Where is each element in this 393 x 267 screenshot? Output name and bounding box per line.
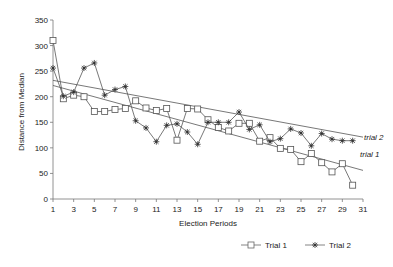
square-marker-icon bbox=[277, 145, 283, 151]
star-marker-icon bbox=[184, 129, 190, 135]
square-marker-icon bbox=[319, 160, 325, 166]
square-marker-icon bbox=[350, 182, 356, 188]
square-marker-icon bbox=[339, 161, 345, 167]
star-marker-icon bbox=[350, 138, 356, 144]
star-marker-icon bbox=[298, 130, 304, 136]
square-marker-icon bbox=[122, 105, 128, 111]
x-tick-label: 29 bbox=[338, 205, 347, 214]
star-marker-icon bbox=[112, 87, 118, 93]
square-marker-icon bbox=[112, 107, 118, 113]
square-marker-icon bbox=[164, 105, 170, 111]
x-tick-label: 7 bbox=[113, 205, 118, 214]
star-marker-icon bbox=[60, 93, 66, 99]
square-marker-icon bbox=[81, 94, 87, 100]
star-marker-icon bbox=[319, 131, 325, 137]
square-marker-icon bbox=[308, 150, 314, 156]
x-tick-label: 3 bbox=[71, 205, 76, 214]
axes: 0501001502002503003501357911131517192123… bbox=[35, 16, 368, 214]
y-tick-label: 0 bbox=[44, 195, 49, 204]
square-marker-icon bbox=[195, 106, 201, 112]
star-marker-icon bbox=[174, 121, 180, 127]
star-marker-icon bbox=[153, 139, 159, 145]
square-marker-icon bbox=[288, 146, 294, 152]
square-marker-icon bbox=[133, 98, 139, 104]
star-marker-icon bbox=[122, 83, 128, 89]
star-marker-icon bbox=[329, 136, 335, 142]
star-marker-icon bbox=[236, 109, 242, 115]
y-tick-label: 200 bbox=[35, 93, 49, 102]
square-marker-icon bbox=[226, 128, 232, 134]
square-marker-icon bbox=[102, 109, 108, 115]
star-marker-icon bbox=[195, 141, 201, 147]
square-marker-icon bbox=[236, 120, 242, 126]
star-marker-icon bbox=[164, 122, 170, 128]
series-trial-2 bbox=[50, 60, 356, 149]
square-marker-icon bbox=[50, 37, 56, 43]
star-marker-icon bbox=[102, 92, 108, 98]
trend-lines bbox=[53, 80, 363, 170]
x-tick-label: 13 bbox=[173, 205, 182, 214]
x-tick-label: 17 bbox=[214, 205, 223, 214]
y-tick-label: 50 bbox=[39, 169, 48, 178]
data-series bbox=[50, 37, 356, 188]
star-marker-icon bbox=[246, 126, 252, 132]
trendline-label-trial-2: trial 2 bbox=[364, 133, 384, 142]
square-marker-icon bbox=[248, 242, 254, 248]
legend-label-trial-2: Trial 2 bbox=[329, 241, 351, 250]
square-marker-icon bbox=[153, 108, 159, 114]
square-marker-icon bbox=[143, 105, 149, 111]
star-marker-icon bbox=[308, 143, 314, 149]
x-tick-label: 9 bbox=[133, 205, 138, 214]
star-marker-icon bbox=[133, 118, 139, 124]
star-marker-icon bbox=[339, 138, 345, 144]
x-tick-label: 31 bbox=[359, 205, 368, 214]
trendline bbox=[53, 80, 363, 137]
star-marker-icon bbox=[205, 119, 211, 125]
square-marker-icon bbox=[257, 138, 263, 144]
star-marker-icon bbox=[143, 125, 149, 131]
star-marker-icon bbox=[267, 139, 273, 145]
x-tick-label: 19 bbox=[235, 205, 244, 214]
square-marker-icon bbox=[184, 105, 190, 111]
y-tick-label: 300 bbox=[35, 42, 49, 51]
legend-item-trial-1: Trial 1 bbox=[241, 241, 287, 250]
legend-label-trial-1: Trial 1 bbox=[265, 241, 287, 250]
x-tick-label: 25 bbox=[297, 205, 306, 214]
star-marker-icon bbox=[226, 119, 232, 125]
trendline-label-trial-1: trial 1 bbox=[360, 150, 380, 159]
y-tick-label: 350 bbox=[35, 16, 49, 25]
x-tick-label: 15 bbox=[193, 205, 202, 214]
square-marker-icon bbox=[298, 159, 304, 165]
square-marker-icon bbox=[91, 109, 97, 115]
line-chart: 0501001502002503003501357911131517192123… bbox=[0, 0, 393, 267]
y-tick-label: 250 bbox=[35, 67, 49, 76]
x-tick-label: 23 bbox=[276, 205, 285, 214]
x-tick-label: 1 bbox=[51, 205, 56, 214]
legend: Trial 1 Trial 2 bbox=[241, 241, 351, 250]
star-marker-icon bbox=[312, 242, 318, 248]
star-marker-icon bbox=[277, 136, 283, 142]
square-marker-icon bbox=[174, 137, 180, 143]
star-marker-icon bbox=[312, 242, 318, 248]
x-tick-label: 11 bbox=[152, 205, 161, 214]
x-tick-label: 27 bbox=[317, 205, 326, 214]
star-marker-icon bbox=[215, 119, 221, 125]
x-tick-label: 21 bbox=[255, 205, 264, 214]
star-marker-icon bbox=[50, 65, 56, 71]
y-tick-label: 100 bbox=[35, 144, 49, 153]
star-marker-icon bbox=[288, 126, 294, 132]
series-trial-1 bbox=[50, 37, 356, 188]
star-marker-icon bbox=[71, 89, 77, 95]
x-tick-label: 5 bbox=[92, 205, 97, 214]
legend-item-trial-2: Trial 2 bbox=[305, 241, 351, 250]
y-axis-label: Distance from Median bbox=[17, 73, 26, 151]
square-marker-icon bbox=[215, 124, 221, 130]
x-axis-label: Election Periods bbox=[179, 219, 237, 228]
star-marker-icon bbox=[257, 122, 263, 128]
y-tick-label: 150 bbox=[35, 118, 49, 127]
star-marker-icon bbox=[81, 65, 87, 71]
square-marker-icon bbox=[329, 169, 335, 175]
star-marker-icon bbox=[91, 60, 97, 66]
